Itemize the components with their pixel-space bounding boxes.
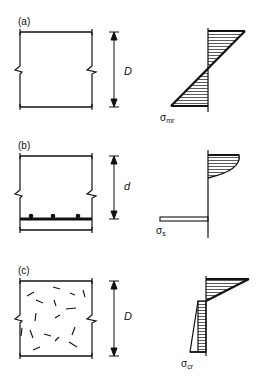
dimension-line-c [109,281,119,356]
panel-c: (c) [15,265,249,370]
rebar-icon [51,214,56,219]
panel-b: (b) d [15,140,239,238]
dimension-label-b: d [124,180,131,192]
fibres [21,287,85,350]
panel-a-label: (a) [18,16,30,27]
section-a [15,29,96,110]
panel-a: (a) D σmr [15,16,245,124]
stress-label-b: σs [156,225,166,237]
stress-diagram-c [190,276,249,356]
rebar-icon [29,214,34,219]
stress-distribution-figure: (a) D σmr (b) [0,0,271,379]
rebar-icon [76,214,81,219]
section-b [15,153,96,233]
section-c [15,278,96,359]
dimension-line-a [109,32,119,107]
stress-label-c: σcr [181,358,194,370]
dimension-label-a: D [124,65,132,77]
dimension-line-b [109,156,119,219]
stress-diagram-b [160,150,239,238]
dimension-label-c: D [124,310,132,322]
panel-b-label: (b) [18,140,30,151]
stress-label-a: σmr [160,112,175,124]
steel-stress-bar [160,217,208,221]
panel-c-label: (c) [18,265,30,276]
stress-diagram-a [171,28,245,112]
reinforcement-bars [20,214,92,219]
